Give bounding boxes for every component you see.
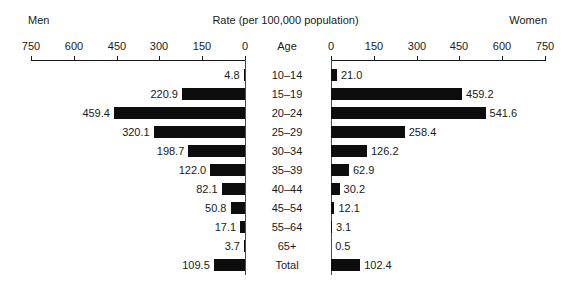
bar-men [154, 126, 245, 138]
bar-value-men: 3.7 [225, 239, 240, 253]
bar-value-women: 0.5 [335, 239, 350, 253]
bar-value-men: 109.5 [182, 258, 210, 272]
bar-men [244, 240, 245, 252]
bar-women [331, 183, 340, 195]
bar-value-women: 126.2 [371, 144, 399, 158]
age-group-label: 15–19 [252, 87, 322, 101]
right-axis-tick [374, 56, 375, 61]
bar-value-men: 459.4 [82, 106, 110, 120]
bar-value-men: 320.1 [122, 125, 150, 139]
chart-title: Rate (per 100,000 population) [0, 14, 571, 26]
chart-row: 50.845–5412.1 [0, 199, 571, 218]
left-axis-tick [74, 56, 75, 61]
bar-value-men: 4.8 [224, 68, 239, 82]
bar-value-women: 3.1 [336, 220, 351, 234]
bar-value-men: 220.9 [150, 87, 178, 101]
left-axis-tick [117, 56, 118, 61]
bar-value-women: 30.2 [344, 182, 365, 196]
bar-women [331, 126, 405, 138]
right-axis-tick-label: 750 [536, 40, 554, 52]
bar-men [222, 183, 245, 195]
right-axis-tick-label: 300 [408, 40, 426, 52]
chart-row: 109.5Total102.4 [0, 256, 571, 275]
left-axis-tick-label: 750 [22, 40, 40, 52]
age-group-label: 45–54 [252, 201, 322, 215]
chart-row: 17.155–643.1 [0, 218, 571, 237]
bar-men [214, 259, 245, 271]
age-group-label: 25–29 [252, 125, 322, 139]
chart-row: 122.035–3962.9 [0, 161, 571, 180]
bar-value-men: 50.8 [205, 201, 226, 215]
left-axis-tick-label: 600 [65, 40, 83, 52]
bar-value-men: 82.1 [196, 182, 217, 196]
left-axis-tick [31, 56, 32, 61]
left-axis-tick-label: 300 [150, 40, 168, 52]
population-pyramid-chart: Men Rate (per 100,000 population) Women … [0, 0, 571, 294]
left-axis-tick [159, 56, 160, 61]
bar-value-women: 12.1 [338, 201, 359, 215]
bar-value-women: 62.9 [353, 163, 374, 177]
bar-men [114, 107, 245, 119]
bar-women [331, 69, 337, 81]
bar-value-men: 17.1 [215, 220, 236, 234]
bar-women [331, 164, 349, 176]
bar-men [240, 221, 245, 233]
bar-value-women: 541.6 [490, 106, 518, 120]
chart-row: 220.915–19459.2 [0, 85, 571, 104]
bar-women [331, 145, 367, 157]
bar-value-women: 459.2 [466, 87, 494, 101]
right-axis-tick [459, 56, 460, 61]
age-group-label: Total [252, 258, 322, 272]
age-group-label: 40–44 [252, 182, 322, 196]
bar-value-women: 258.4 [409, 125, 437, 139]
right-axis-tick-label: 600 [493, 40, 511, 52]
bar-women [331, 202, 334, 214]
age-group-label: 20–24 [252, 106, 322, 120]
right-axis-tick-label: 150 [365, 40, 383, 52]
age-group-label: 35–39 [252, 163, 322, 177]
chart-row: 320.125–29258.4 [0, 123, 571, 142]
bar-women [331, 259, 360, 271]
bar-men [244, 69, 245, 81]
chart-row: 82.140–4430.2 [0, 180, 571, 199]
chart-row: 3.765+0.5 [0, 237, 571, 256]
right-axis-line [331, 60, 545, 61]
bar-men [231, 202, 245, 214]
right-axis-tick-label: 0 [328, 40, 334, 52]
bar-men [188, 145, 245, 157]
right-axis-tick [417, 56, 418, 61]
left-axis-line [31, 60, 245, 61]
right-axis-tick [545, 56, 546, 61]
bar-value-men: 198.7 [157, 144, 185, 158]
bar-men [182, 88, 245, 100]
age-group-label: 55–64 [252, 220, 322, 234]
left-axis-tick [202, 56, 203, 61]
left-axis-tick-label: 150 [193, 40, 211, 52]
age-group-label: 30–34 [252, 144, 322, 158]
age-group-label: 65+ [252, 239, 322, 253]
right-axis-tick [502, 56, 503, 61]
bar-value-women: 21.0 [341, 68, 362, 82]
left-axis-tick-label: 450 [108, 40, 126, 52]
age-group-label: 10–14 [252, 68, 322, 82]
bar-value-women: 102.4 [364, 258, 392, 272]
bar-women [331, 221, 332, 233]
left-axis-tick-label: 0 [242, 40, 248, 52]
bar-men [210, 164, 245, 176]
age-column-header: Age [252, 40, 322, 52]
women-header-label: Women [509, 14, 547, 26]
bar-women [331, 88, 462, 100]
chart-row: 459.420–24541.6 [0, 104, 571, 123]
chart-row: 198.730–34126.2 [0, 142, 571, 161]
bar-value-men: 122.0 [179, 163, 207, 177]
chart-row: 4.810–1421.0 [0, 66, 571, 85]
bar-women [331, 107, 486, 119]
right-axis-tick-label: 450 [450, 40, 468, 52]
